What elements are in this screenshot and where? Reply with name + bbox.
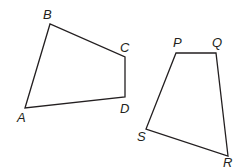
vertex-label-q: Q [212, 35, 222, 50]
vertex-label-p: P [173, 35, 182, 50]
geometry-figure: A B C D P Q R S [0, 0, 250, 167]
vertex-label-r: R [223, 155, 232, 167]
vertex-label-d: D [120, 101, 129, 116]
quadrilateral-pqrs [146, 53, 228, 156]
vertex-label-c: C [120, 40, 130, 55]
vertex-label-a: A [16, 110, 26, 125]
quadrilateral-abcd [25, 24, 125, 108]
vertex-label-b: B [43, 7, 52, 22]
vertex-label-s: S [137, 129, 146, 144]
